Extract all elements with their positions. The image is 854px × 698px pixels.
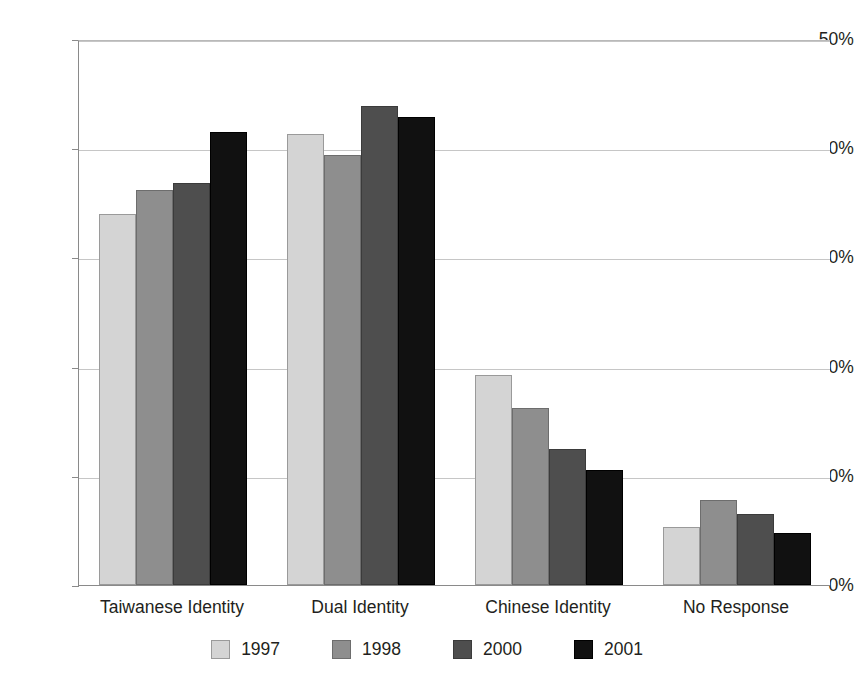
bar-group: [267, 41, 455, 585]
bar: [398, 117, 435, 585]
x-category-label: Taiwanese Identity: [78, 597, 266, 618]
y-tick-mark-0: [72, 586, 79, 587]
plot-area: [78, 40, 830, 586]
legend-label: 1997: [241, 640, 280, 659]
bar: [210, 132, 247, 585]
x-category-label: Dual Identity: [266, 597, 454, 618]
legend-item-1997[interactable]: 1997: [211, 640, 280, 659]
bar: [586, 470, 623, 585]
legend-label: 2000: [483, 640, 522, 659]
legend-item-1998[interactable]: 1998: [332, 640, 401, 659]
bar: [700, 500, 737, 585]
bar-group: [643, 41, 831, 585]
bar: [361, 106, 398, 585]
legend-swatch-icon: [574, 640, 593, 659]
bar-group: [455, 41, 643, 585]
bar: [549, 449, 586, 586]
legend-item-2000[interactable]: 2000: [453, 640, 522, 659]
bar: [774, 533, 811, 585]
legend: 1997199820002001: [0, 640, 854, 659]
legend-item-2001[interactable]: 2001: [574, 640, 643, 659]
bar: [99, 214, 136, 585]
legend-swatch-icon: [453, 640, 472, 659]
bar: [136, 190, 173, 585]
bar: [475, 375, 512, 585]
bar-group: [79, 41, 267, 585]
legend-swatch-icon: [332, 640, 351, 659]
legend-label: 2001: [604, 640, 643, 659]
bar: [173, 183, 210, 585]
x-category-label: No Response: [642, 597, 830, 618]
bar: [287, 134, 324, 585]
legend-label: 1998: [362, 640, 401, 659]
bar: [737, 514, 774, 585]
bar-chart: 50%40%30%20%10%0% Taiwanese IdentityDual…: [0, 0, 854, 698]
legend-swatch-icon: [211, 640, 230, 659]
bar: [512, 408, 549, 585]
bar: [663, 527, 700, 585]
bar: [324, 155, 361, 585]
x-category-label: Chinese Identity: [454, 597, 642, 618]
